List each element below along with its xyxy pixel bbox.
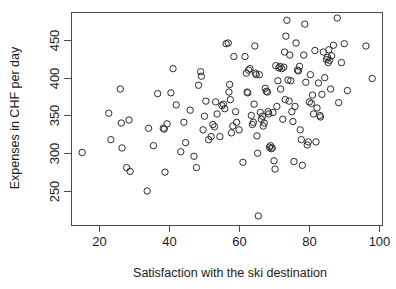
x-tick-label: 60: [232, 234, 246, 249]
data-point: [144, 188, 150, 194]
data-point: [212, 99, 218, 105]
y-tick-label: 400: [47, 68, 62, 90]
data-point: [307, 71, 313, 77]
data-point: [170, 65, 176, 71]
data-point: [257, 109, 263, 115]
data-point: [296, 63, 302, 69]
data-point: [251, 101, 257, 107]
data-point: [191, 153, 197, 159]
data-point: [284, 17, 290, 23]
data-point: [338, 59, 344, 65]
y-tick-label: 250: [47, 181, 62, 203]
data-point: [341, 41, 347, 47]
y-tick-label: 350: [47, 105, 62, 127]
data-point: [330, 42, 336, 48]
x-axis-title: Satisfaction with the ski destination: [133, 266, 327, 280]
data-point: [369, 75, 375, 81]
data-point: [233, 119, 239, 125]
y-axis-tick-labels: 250300350400450: [47, 30, 62, 203]
data-point: [123, 164, 129, 170]
data-point: [254, 133, 260, 139]
y-axis-title: Expenses in CHF per day: [8, 46, 22, 189]
data-point: [283, 33, 289, 39]
data-point: [286, 98, 292, 104]
data-point: [335, 99, 341, 105]
data-point: [226, 89, 232, 95]
data-point: [309, 92, 315, 98]
x-tick-label: 80: [302, 234, 316, 249]
x-axis: [100, 225, 380, 232]
data-point: [282, 96, 288, 102]
data-point: [248, 112, 254, 118]
data-point: [127, 168, 133, 174]
data-point: [254, 150, 260, 156]
data-point: [126, 117, 132, 123]
data-point: [119, 145, 125, 151]
data-point: [299, 162, 305, 168]
data-point: [314, 105, 320, 111]
data-point: [247, 65, 253, 71]
data-point: [277, 86, 283, 92]
data-point: [293, 40, 299, 46]
data-point: [162, 169, 168, 175]
data-point: [313, 139, 319, 145]
data-point: [308, 100, 314, 106]
data-point: [291, 158, 297, 164]
data-point: [230, 123, 236, 129]
data-point: [220, 101, 226, 107]
data-point: [344, 87, 350, 93]
data-point: [108, 136, 114, 142]
data-point: [187, 107, 193, 113]
data-point: [310, 111, 316, 117]
data-point: [236, 127, 242, 133]
data-point: [363, 43, 369, 49]
data-point: [319, 91, 325, 97]
data-point: [321, 75, 327, 81]
data-point: [303, 79, 309, 85]
data-point: [150, 142, 156, 148]
data-point: [272, 166, 278, 172]
data-point: [290, 118, 296, 124]
plot-canvas: 20406080100 250300350400450 Satisfaction…: [0, 0, 396, 289]
data-point: [298, 136, 304, 142]
data-points: [79, 15, 375, 219]
data-point: [297, 127, 303, 133]
data-point: [271, 158, 277, 164]
data-point: [118, 120, 124, 126]
data-point: [306, 99, 312, 105]
y-tick-label: 300: [47, 143, 62, 165]
data-point: [334, 15, 340, 21]
data-point: [203, 98, 209, 104]
data-point: [315, 80, 321, 86]
data-point: [301, 52, 307, 58]
data-point: [214, 111, 220, 117]
x-tick-label: 100: [369, 234, 391, 249]
y-axis: [64, 41, 71, 192]
data-point: [164, 121, 170, 127]
data-point: [168, 90, 174, 96]
data-point: [227, 96, 233, 102]
data-point: [312, 47, 318, 53]
data-point: [250, 119, 256, 125]
data-point: [242, 53, 248, 59]
data-point: [240, 159, 246, 165]
data-point: [79, 149, 85, 155]
data-point: [117, 86, 123, 92]
plot-frame: [72, 13, 383, 226]
data-point: [181, 119, 187, 125]
data-point: [154, 90, 160, 96]
data-point: [198, 73, 204, 79]
data-point: [178, 149, 184, 155]
data-point: [231, 53, 237, 59]
data-point: [226, 81, 232, 87]
data-point: [274, 103, 280, 109]
data-point: [327, 86, 333, 92]
data-point: [200, 127, 206, 133]
data-point: [232, 109, 238, 115]
data-point: [280, 116, 286, 122]
data-point: [252, 43, 258, 49]
data-point: [217, 133, 223, 139]
data-point: [292, 103, 298, 109]
x-axis-tick-labels: 20406080100: [92, 234, 390, 249]
data-point: [182, 139, 188, 145]
